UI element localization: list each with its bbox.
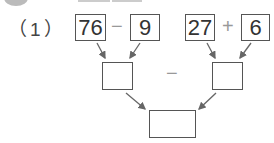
flow-arrows — [0, 0, 274, 143]
arrow-icon — [97, 43, 105, 58]
arrow-icon — [130, 43, 140, 58]
arrow-icon — [207, 43, 215, 58]
arrow-icon — [240, 43, 251, 58]
arrow-icon — [126, 93, 145, 109]
arrow-icon — [199, 93, 216, 109]
